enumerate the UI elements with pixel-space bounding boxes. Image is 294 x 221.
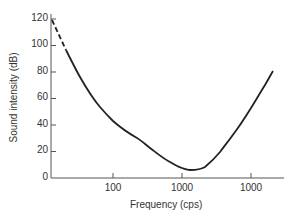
y-tick-label: 80 — [26, 65, 48, 76]
x-tick-label: 1000 — [231, 182, 271, 193]
y-tick-label: 40 — [26, 118, 48, 129]
y-ticks — [51, 19, 56, 152]
curve-solid — [66, 50, 273, 170]
x-ticks — [113, 173, 251, 178]
y-tick-label: 0 — [26, 171, 48, 182]
y-axis-label: Sound intensity (dB) — [8, 43, 19, 153]
y-tick-label: 20 — [26, 144, 48, 155]
y-tick-label: 120 — [26, 12, 48, 23]
x-tick-label: 100 — [93, 182, 133, 193]
y-tick-label: 60 — [26, 91, 48, 102]
chart: 120 100 80 60 40 20 0 100 1000 1000 Soun… — [0, 0, 294, 221]
y-tick-label: 100 — [26, 38, 48, 49]
x-tick-label: 1000 — [162, 182, 202, 193]
x-axis-label: Frequency (cps) — [130, 199, 202, 210]
